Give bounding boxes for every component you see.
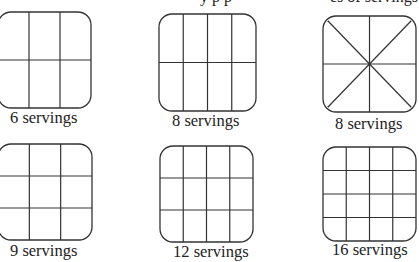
cut-lines (159, 14, 256, 111)
pan-8-servings-grid: 8 servings (159, 14, 256, 130)
cut-lines (160, 146, 253, 242)
servings-label: 8 servings (172, 111, 239, 130)
pan-outline (0, 144, 92, 240)
servings-label: 8 servings (335, 114, 402, 133)
clipped-text-fragment: y p p (200, 0, 232, 6)
clipped-heading-text: y p pes of servings (200, 0, 418, 6)
pan-grid: 6 servings8 servings8 servings9 servings… (0, 12, 416, 261)
pan-9-servings: 9 servings (0, 144, 92, 260)
clipped-text-fragment: es of servings (330, 0, 418, 6)
pan-6-servings: 6 servings (0, 12, 91, 127)
serving-diagram: y p pes of servings 6 servings8 servings… (0, 0, 419, 262)
servings-label: 9 servings (10, 241, 77, 260)
pan-12-servings: 12 servings (160, 146, 253, 261)
servings-label: 12 servings (173, 242, 249, 261)
cut-lines (323, 16, 416, 112)
servings-label: 6 servings (10, 108, 77, 127)
pan-8-servings-radial: 8 servings (323, 16, 416, 133)
cut-lines (0, 12, 91, 108)
diagram-canvas: y p pes of servings 6 servings8 servings… (0, 0, 419, 262)
cut-lines (0, 144, 92, 240)
pan-16-servings: 16 servings (323, 147, 416, 259)
servings-label: 16 servings (332, 240, 408, 259)
cut-lines (323, 147, 416, 241)
